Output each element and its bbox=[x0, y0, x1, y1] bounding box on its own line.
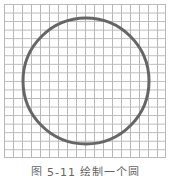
circle-diagram bbox=[0, 0, 171, 176]
figure-caption: 图 5-11 绘制一个圆 bbox=[0, 163, 171, 176]
circle-shape bbox=[23, 18, 149, 144]
